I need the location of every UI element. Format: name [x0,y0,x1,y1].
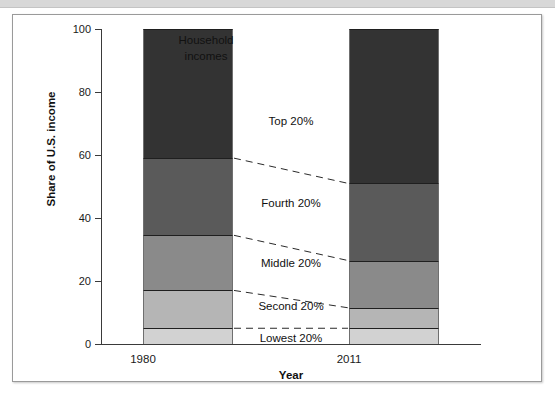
y-tick-label-40: 40 [51,213,91,224]
series-label-top: Top 20% [236,115,346,127]
y-axis-title: Share of U.S. income [45,69,57,229]
x-tick-label-2011: 2011 [309,353,389,365]
chart-title-line-1: Household [151,33,261,49]
stacked-bar-chart: 100 80 60 40 20 0 Share of U.S. income [13,15,541,381]
stacked-bar-1980 [143,29,233,344]
series-label-fourth: Fourth 20% [236,197,346,209]
connector-fourth [234,158,348,183]
x-axis-line [101,344,481,345]
figure-frame: 100 80 60 40 20 0 Share of U.S. income [12,14,542,382]
y-tick-mark-0 [95,344,101,345]
plot-interior: Top 20% Fourth 20% Middle 20% Second 20%… [101,29,481,344]
x-tick-label-1980: 1980 [103,353,183,365]
y-tick-label-80: 80 [51,87,91,98]
series-label-lowest: Lowest 20% [236,332,346,344]
bar-segment-1980-middle [143,235,233,290]
bar-segment-2011-lowest [349,328,439,344]
series-label-middle: Middle 20% [236,257,346,269]
series-label-second: Second 20% [236,300,346,312]
bar-segment-1980-second [143,290,233,328]
x-axis-title: Year [101,369,481,381]
stacked-bar-2011 [349,29,439,344]
bar-segment-2011-middle [349,261,439,308]
y-tick-label-20: 20 [51,276,91,287]
page-top-bar [0,0,555,8]
y-tick-label-0: 0 [51,339,91,350]
chart-title: Household incomes [151,33,261,64]
y-tick-label-60: 60 [51,150,91,161]
bar-segment-1980-lowest [143,328,233,344]
y-tick-label-100: 100 [51,24,91,35]
bar-segment-2011-fourth [349,183,439,260]
bar-segment-2011-top [349,29,439,183]
bar-segment-1980-fourth [143,158,233,235]
bar-segment-2011-second [349,308,439,328]
chart-title-line-2: incomes [151,49,261,65]
